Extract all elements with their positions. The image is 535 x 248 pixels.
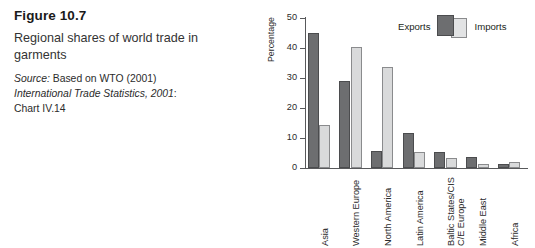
y-tick-label: 0 <box>292 162 297 172</box>
source-line-1: Source: Based on WTO (2001) <box>14 72 254 87</box>
x-label-line: North America <box>383 188 393 246</box>
legend-swatches <box>437 15 469 38</box>
bar-imports-2 <box>382 67 393 168</box>
y-tick-40: 40 <box>268 48 306 49</box>
figure-number: Figure 10.7 <box>14 8 254 23</box>
y-tick-label: 10 <box>287 132 297 142</box>
y-tick-label: 50 <box>287 12 297 22</box>
y-tick-50: 50 <box>268 18 306 19</box>
x-label-line: Middle East <box>478 198 488 246</box>
legend-label-exports: Exports <box>398 21 431 32</box>
figure-caption: Figure 10.7 Regional shares of world tra… <box>14 8 254 117</box>
x-label-line: Africa <box>510 223 520 247</box>
x-label-line: Asia <box>320 228 330 246</box>
bar-imports-3 <box>414 152 425 168</box>
bar-imports-0 <box>319 125 330 168</box>
bar-chart: Percentage 01020304050 Exports Imports A… <box>268 0 535 248</box>
source-line-2: International Trade Statistics, 2001: <box>14 87 254 102</box>
y-tick-0: 0 <box>268 168 306 169</box>
bar-imports-4 <box>446 158 457 169</box>
chart-legend: Exports Imports <box>398 14 507 38</box>
y-tick-label: 30 <box>287 72 297 82</box>
source-publication: International Trade Statistics, 2001 <box>14 88 174 99</box>
x-axis-line <box>305 168 528 169</box>
bar-exports-6 <box>498 164 509 169</box>
bar-exports-3 <box>403 133 414 168</box>
legend-swatch-exports <box>437 15 454 36</box>
x-label-line: C/E Europe <box>456 177 466 246</box>
y-tick-label: 20 <box>287 102 297 112</box>
y-tick-20: 20 <box>268 108 306 109</box>
source-line-3: Chart IV.14 <box>14 102 254 117</box>
figure-description: Regional shares of world trade in garmen… <box>14 30 254 63</box>
y-tick-label: 40 <box>287 42 297 52</box>
bar-exports-2 <box>371 151 382 168</box>
bar-imports-5 <box>478 164 489 168</box>
x-label-line: Western Europe <box>351 180 361 246</box>
legend-label-imports: Imports <box>475 21 507 32</box>
x-label-line: Baltic States/CIS <box>446 177 456 246</box>
plot-area <box>306 18 528 168</box>
figure-source: Source: Based on WTO (2001) Internationa… <box>14 72 254 116</box>
bar-exports-4 <box>434 152 445 168</box>
bar-exports-5 <box>466 157 477 168</box>
x-label-line: Latin America <box>415 190 425 246</box>
bar-imports-1 <box>351 47 362 168</box>
figure-page: Figure 10.7 Regional shares of world tra… <box>0 0 535 248</box>
y-tick-mark <box>300 168 306 169</box>
bar-exports-0 <box>308 33 319 168</box>
y-tick-10: 10 <box>268 138 306 139</box>
x-axis-labels: AsiaWestern EuropeNorth AmericaLatin Ame… <box>306 172 528 248</box>
source-text: Based on WTO (2001) <box>50 73 157 84</box>
y-tick-30: 30 <box>268 78 306 79</box>
y-axis-title: Percentage <box>266 17 276 62</box>
source-colon: : <box>174 88 177 99</box>
bar-exports-1 <box>339 81 350 168</box>
bar-imports-6 <box>509 162 520 168</box>
source-label: Source: <box>14 73 50 84</box>
